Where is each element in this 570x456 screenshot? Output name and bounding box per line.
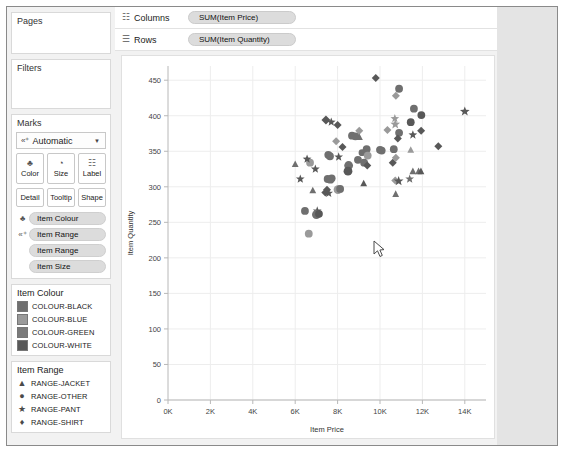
mark-circle[interactable] xyxy=(301,207,309,215)
legend-colour-title: Item Colour xyxy=(12,285,110,300)
mark-star[interactable] xyxy=(390,119,400,128)
mark-circle[interactable] xyxy=(417,111,425,119)
size-icon: ◔ xyxy=(58,159,63,168)
marks-pill-label[interactable]: Item Range xyxy=(29,228,106,241)
mark-circle[interactable] xyxy=(407,118,415,126)
y-tick-label: 150 xyxy=(148,289,161,298)
mark-circle[interactable] xyxy=(344,167,353,176)
mark-type-label: Automatic xyxy=(32,136,94,146)
mark-triangle[interactable] xyxy=(407,146,414,153)
mark-triangle[interactable] xyxy=(392,190,399,197)
color-icon: ♣ xyxy=(27,159,33,168)
y-tick-label: 200 xyxy=(148,254,161,263)
mark-circle[interactable] xyxy=(326,152,334,160)
label-button[interactable]: ☷ Label xyxy=(78,153,106,184)
colour-swatch xyxy=(17,314,28,325)
legend-item[interactable]: ★ RANGE-PANT xyxy=(12,403,110,416)
mark-circle[interactable] xyxy=(395,129,403,137)
app-window: Pages Filters Marks «⁺ Automatic ▼ ♣ xyxy=(6,6,558,446)
collapsed-side-panel[interactable] xyxy=(497,7,557,445)
shape-button[interactable]: Shape xyxy=(78,188,106,207)
tooltip-button[interactable]: Tooltip xyxy=(47,188,75,207)
mark-star[interactable] xyxy=(334,152,343,160)
legend-label: COLOUR-BLUE xyxy=(32,315,87,324)
x-tick-label: 14K xyxy=(458,407,471,416)
x-tick-label: 6K xyxy=(291,407,300,416)
rows-pill[interactable]: SUM(Item Quantity) xyxy=(188,33,296,46)
legend-item[interactable]: COLOUR-WHITE xyxy=(12,339,110,352)
mark-circle[interactable] xyxy=(390,145,398,153)
marks-pill-label[interactable]: Item Colour xyxy=(29,212,106,225)
filters-card[interactable]: Filters xyxy=(11,59,111,109)
y-axis-title: Item Quantity xyxy=(126,210,135,255)
marks-pill-label[interactable]: Item Range xyxy=(29,244,106,257)
mark-star[interactable] xyxy=(296,174,305,182)
chart-view[interactable]: 0501001502002503003504004500K2K4K6K8K10K… xyxy=(121,55,495,439)
mark-circle[interactable] xyxy=(328,174,336,182)
legend-item[interactable]: ▲ RANGE-JACKET xyxy=(12,377,110,390)
color-swatch-icon: ♣ xyxy=(16,214,29,223)
marks-pill-item-size[interactable]: Item Size xyxy=(16,259,106,273)
mark-triangle[interactable] xyxy=(292,160,299,167)
columns-shelf[interactable]: ☷ Columns SUM(Item Price) xyxy=(115,7,557,29)
star-icon: ★ xyxy=(17,405,27,414)
mark-circle[interactable] xyxy=(336,185,344,193)
mark-star[interactable] xyxy=(408,130,417,138)
mark-triangle[interactable] xyxy=(309,187,316,194)
chevron-down-icon: ▼ xyxy=(94,138,105,144)
x-tick-label: 2K xyxy=(206,407,215,416)
label-icon: ☷ xyxy=(88,159,96,168)
mark-diamond[interactable] xyxy=(338,143,346,151)
marks-pill-item-colour[interactable]: ♣ Item Colour xyxy=(16,211,106,225)
triangle-icon: ▲ xyxy=(17,379,27,388)
pages-dropzone[interactable] xyxy=(12,28,110,50)
size-button[interactable]: ◔ Size xyxy=(47,153,75,184)
mark-circle[interactable] xyxy=(305,230,313,238)
mark-circle[interactable] xyxy=(378,147,386,155)
y-tick-label: 50 xyxy=(153,360,161,369)
legend-label: RANGE-SHIRT xyxy=(31,418,84,427)
shape-field-icon: «⁺ xyxy=(16,230,29,239)
mark-diamond[interactable] xyxy=(434,142,442,150)
mark-circle[interactable] xyxy=(410,105,418,113)
pages-card[interactable]: Pages xyxy=(11,12,111,54)
mark-diamond[interactable] xyxy=(392,92,400,100)
marks-title: Marks xyxy=(12,115,110,130)
scatter-plot[interactable]: 0501001502002503003504004500K2K4K6K8K10K… xyxy=(122,56,494,438)
marks-button-row-1: ♣ Color ◔ Size ☷ Label xyxy=(16,153,106,184)
color-button[interactable]: ♣ Color xyxy=(16,153,44,184)
mark-diamond[interactable] xyxy=(372,74,380,82)
x-tick-label: 12K xyxy=(416,407,429,416)
mark-triangle[interactable] xyxy=(409,168,416,175)
legend-item[interactable]: COLOUR-BLUE xyxy=(12,313,110,326)
mark-diamond[interactable] xyxy=(332,137,340,145)
y-tick-label: 400 xyxy=(148,112,161,121)
legend-item[interactable]: ♦ RANGE-SHIRT xyxy=(12,416,110,429)
tableau-worksheet-screen: Pages Filters Marks «⁺ Automatic ▼ ♣ xyxy=(0,0,570,456)
mark-diamond[interactable] xyxy=(383,126,391,134)
label-button-label: Label xyxy=(83,169,101,178)
legend-label: COLOUR-GREEN xyxy=(32,328,94,337)
mark-diamond[interactable] xyxy=(334,121,342,129)
mark-diamond[interactable] xyxy=(321,116,330,125)
rows-shelf[interactable]: ☰ Rows SUM(Item Quantity) xyxy=(115,29,557,51)
detail-button[interactable]: Detail xyxy=(16,188,44,207)
filters-dropzone[interactable] xyxy=(12,75,110,97)
mark-type-dropdown[interactable]: «⁺ Automatic ▼ xyxy=(16,132,106,149)
mark-circle[interactable] xyxy=(364,152,372,160)
legend-label: RANGE-PANT xyxy=(31,405,81,414)
marks-pill-item-range-shape[interactable]: «⁺ Item Range xyxy=(16,227,106,241)
columns-pill[interactable]: SUM(Item Price) xyxy=(188,11,296,24)
mark-star[interactable] xyxy=(405,174,414,182)
mark-diamond[interactable] xyxy=(417,127,425,135)
mark-circle[interactable] xyxy=(315,210,323,218)
size-button-label: Size xyxy=(54,169,69,178)
mark-triangle[interactable] xyxy=(360,180,367,187)
marks-pill-item-range-detail[interactable]: Item Range xyxy=(16,243,106,257)
legend-item[interactable]: COLOUR-GREEN xyxy=(12,326,110,339)
marks-pill-label[interactable]: Item Size xyxy=(29,260,106,273)
legend-item[interactable]: COLOUR-BLACK xyxy=(12,300,110,313)
filters-title: Filters xyxy=(12,60,110,75)
mark-circle[interactable] xyxy=(395,85,403,93)
legend-item[interactable]: ● RANGE-OTHER xyxy=(12,390,110,403)
